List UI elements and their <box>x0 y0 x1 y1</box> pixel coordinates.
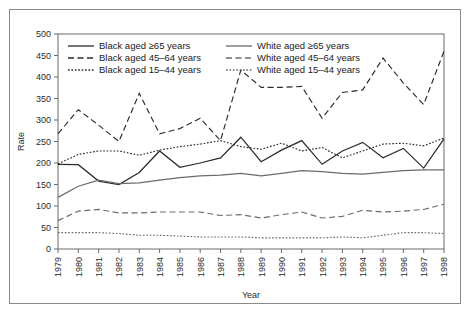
x-tick-label: 1995 <box>378 257 388 277</box>
axes: 0501001502002503003504004505001979198019… <box>36 29 449 277</box>
series-line <box>58 170 444 198</box>
y-tick-label: 250 <box>36 137 51 147</box>
x-tick-label: 1991 <box>297 257 307 277</box>
x-tick-label: 1997 <box>419 257 429 277</box>
x-tick-label: 1988 <box>236 257 246 277</box>
y-tick-label: 350 <box>36 94 51 104</box>
chart-legend: Black aged ≥65 yearsWhite aged ≥65 years… <box>68 40 360 75</box>
y-tick-label: 200 <box>36 158 51 168</box>
x-tick-label: 1986 <box>196 257 206 277</box>
y-tick-label: 400 <box>36 72 51 82</box>
series-line <box>58 204 444 220</box>
x-tick-label: 1979 <box>53 257 63 277</box>
x-tick-label: 1996 <box>399 257 409 277</box>
y-tick-label: 450 <box>36 51 51 61</box>
x-tick-label: 1992 <box>318 257 328 277</box>
y-tick-label: 500 <box>36 29 51 39</box>
line-chart: 0501001502002503003504004505001979198019… <box>10 10 460 303</box>
x-tick-label: 1980 <box>74 257 84 277</box>
legend-label: Black aged ≥65 years <box>99 40 191 51</box>
legend-label: Black aged 45–64 years <box>99 52 201 63</box>
legend-label: Black aged 15–44 years <box>99 64 201 75</box>
y-tick-label: 300 <box>36 115 51 125</box>
x-tick-label: 1990 <box>277 257 287 277</box>
x-tick-label: 1994 <box>358 257 368 277</box>
x-tick-label: 1985 <box>175 257 185 277</box>
y-tick-label: 150 <box>36 180 51 190</box>
x-tick-label: 1989 <box>257 257 267 277</box>
series-line <box>58 138 444 164</box>
x-tick-label: 1981 <box>94 257 104 277</box>
y-tick-label: 0 <box>46 244 51 254</box>
x-tick-label: 1983 <box>135 257 145 277</box>
figure-frame: 0501001502002503003504004505001979198019… <box>9 9 461 304</box>
y-tick-label: 50 <box>41 223 51 233</box>
x-axis-title: Year <box>242 290 260 300</box>
legend-label: White aged ≥65 years <box>257 40 350 51</box>
x-tick-label: 1998 <box>439 257 449 277</box>
series-line <box>58 233 444 238</box>
x-tick-label: 1982 <box>114 257 124 277</box>
x-tick-label: 1984 <box>155 257 165 277</box>
y-axis-title: Rate <box>16 132 26 151</box>
series-lines <box>58 51 444 238</box>
legend-label: White aged 15–44 years <box>257 64 360 75</box>
x-tick-label: 1987 <box>216 257 226 277</box>
y-tick-label: 100 <box>36 201 51 211</box>
x-tick-label: 1993 <box>338 257 348 277</box>
legend-label: White aged 45–64 years <box>257 52 360 63</box>
